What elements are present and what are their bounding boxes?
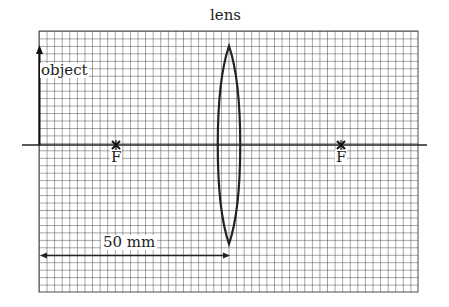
- object-label: object: [40, 63, 89, 78]
- focal-point-right-label: F: [335, 150, 347, 165]
- ray-diagram: lens object F F 50 mm: [0, 0, 449, 307]
- lens-label: lens: [210, 8, 241, 23]
- dimension-label: 50 mm: [101, 235, 157, 250]
- diagram-canvas: [0, 0, 449, 307]
- graph-paper-grid: [39, 31, 418, 292]
- focal-point-left-label: F: [110, 150, 122, 165]
